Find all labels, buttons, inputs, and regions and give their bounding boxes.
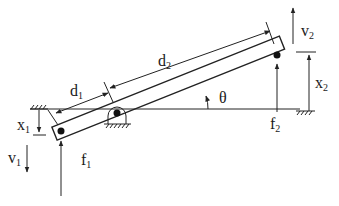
d2-dimension-arrow xyxy=(110,31,270,88)
theta-arc xyxy=(206,96,208,109)
d-extension-left xyxy=(48,110,58,125)
right-mass xyxy=(274,52,281,59)
d-extension-mid xyxy=(104,82,113,102)
right-ground-hatch xyxy=(296,111,315,115)
lever-diagram: d1 d2 θ f1 f2 x1 v1 v2 x2 xyxy=(0,0,339,206)
x1-label: x1 xyxy=(17,116,30,135)
f2-label: f2 xyxy=(270,115,280,134)
f1-label: f1 xyxy=(81,151,91,170)
lever-bar xyxy=(52,36,285,140)
v2-label: v2 xyxy=(301,22,314,41)
d1-label: d1 xyxy=(70,82,83,101)
d2-label: d2 xyxy=(158,52,171,71)
x2-indicator xyxy=(296,52,316,111)
v1-label: v1 xyxy=(8,149,21,168)
left-mass xyxy=(58,128,65,135)
x2-label: x2 xyxy=(315,74,328,93)
x1-indicator xyxy=(33,110,46,135)
theta-label: θ xyxy=(219,89,227,106)
pivot-support xyxy=(104,107,131,128)
left-ground-hatch xyxy=(30,105,48,109)
